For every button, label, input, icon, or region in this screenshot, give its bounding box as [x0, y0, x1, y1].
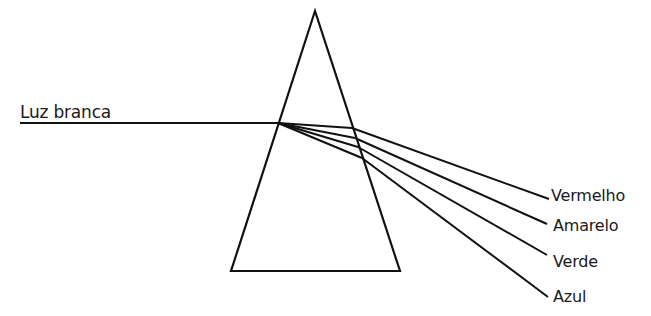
prism-diagram: Luz branca Vermelho Amarelo Verde Azul: [0, 0, 651, 316]
ray-red: [352, 128, 549, 199]
red-ray-label: Vermelho: [551, 188, 625, 204]
yellow-ray-label: Amarelo: [553, 218, 618, 234]
ray-blue: [362, 158, 548, 297]
white-light-label: Luz branca: [20, 104, 111, 121]
internal-rays: [278, 123, 362, 158]
green-ray-label: Verde: [553, 254, 598, 270]
ray-yellow: [355, 138, 547, 224]
prism-triangle: [231, 11, 400, 271]
blue-ray-label: Azul: [553, 289, 586, 305]
